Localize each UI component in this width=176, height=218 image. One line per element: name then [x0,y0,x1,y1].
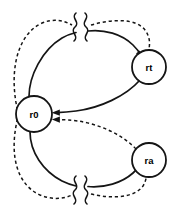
diagram-canvas: r0 rt ra [0,0,176,218]
break-mark-top-dashed [73,13,77,41]
edge-r0-to-ra-dashed-right [91,173,147,197]
edge-r0-to-ra-solid-left [30,132,76,186]
node-ra-label: ra [145,155,155,166]
break-mark-top-solid [84,13,88,41]
edge-r0-to-rt-dashed-left [14,20,72,110]
edge-r0-to-ra-dashed-left [14,119,72,198]
edge-r0-to-rt-solid-right [88,31,141,55]
arrowhead-into-r0-lower [52,117,60,123]
edge-ra-to-r0-dashed-path [58,120,137,149]
node-ra[interactable]: ra [132,143,166,177]
edge-rt-to-r0-solid-path [57,80,140,113]
node-rt[interactable]: rt [132,50,166,84]
break-mark-bottom-solid [73,176,77,204]
break-mark-bottom-dashed [84,176,88,204]
edge-r0-to-rt-solid-left [29,33,76,97]
edge-rt-to-r0-solid [52,80,140,116]
node-r0[interactable]: r0 [16,96,52,132]
edge-r0-to-rt-dashed-right [91,21,150,49]
node-r0-label: r0 [30,109,39,120]
state-transition-diagram: r0 rt ra [0,0,176,218]
node-rt-label: rt [146,62,154,73]
edge-ra-to-r0-dashed [52,117,136,150]
